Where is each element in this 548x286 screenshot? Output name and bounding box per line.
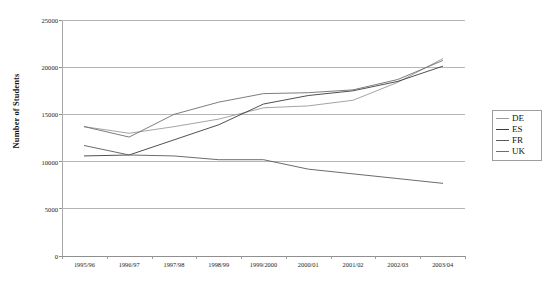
x-tick-label: 1999/2000 (250, 261, 277, 269)
x-tick-mark (107, 256, 108, 259)
y-tick-label: 10000 (42, 158, 58, 165)
x-tick-label: 2001/02 (343, 261, 364, 269)
x-tick-label: 1995/96 (74, 261, 95, 269)
x-tick-label: 2000/01 (298, 261, 319, 269)
x-tick-label: 2003/04 (432, 261, 453, 269)
legend-swatch-icon (496, 118, 509, 119)
legend-swatch-icon (496, 140, 509, 141)
x-tick-mark (286, 256, 287, 259)
legend-item-es[interactable]: ES (496, 124, 538, 135)
y-tick-label: 0 (55, 253, 58, 260)
x-tick-label: 1997/98 (163, 261, 184, 269)
legend-label: DE (512, 113, 524, 124)
x-tick-label: 1998/99 (208, 261, 229, 269)
series-lines (62, 20, 465, 256)
x-tick-mark (62, 256, 63, 259)
legend-item-de[interactable]: DE (496, 113, 538, 124)
x-tick-label: 1996/97 (119, 261, 140, 269)
y-tick-label: 25000 (42, 17, 58, 24)
x-tick-mark (465, 256, 466, 259)
y-tick-label: 5000 (45, 205, 58, 212)
legend: DEESFRUK (492, 110, 542, 161)
legend-label: UK (512, 146, 525, 157)
legend-label: ES (512, 124, 523, 135)
x-tick-mark (375, 256, 376, 259)
legend-swatch-icon (496, 151, 509, 152)
plot-area: 0500010000150002000025000 1995/961996/97… (62, 20, 465, 256)
legend-item-fr[interactable]: FR (496, 135, 538, 146)
series-line-es (84, 66, 442, 156)
chart-title (0, 0, 470, 1)
y-tick-label: 20000 (42, 64, 58, 71)
x-tick-mark (152, 256, 153, 259)
x-tick-mark (241, 256, 242, 259)
series-line-uk (84, 61, 442, 137)
legend-item-uk[interactable]: UK (496, 146, 538, 157)
y-axis-title: Number of Students (11, 71, 21, 151)
series-line-fr (84, 146, 442, 184)
legend-label: FR (512, 135, 523, 146)
y-tick-label: 15000 (42, 111, 58, 118)
line-chart: Number of Students 050001000015000200002… (0, 0, 548, 286)
x-tick-mark (331, 256, 332, 259)
x-tick-label: 2002/03 (387, 261, 408, 269)
series-line-de (84, 59, 442, 134)
x-tick-mark (196, 256, 197, 259)
x-tick-mark (420, 256, 421, 259)
legend-swatch-icon (496, 129, 509, 130)
